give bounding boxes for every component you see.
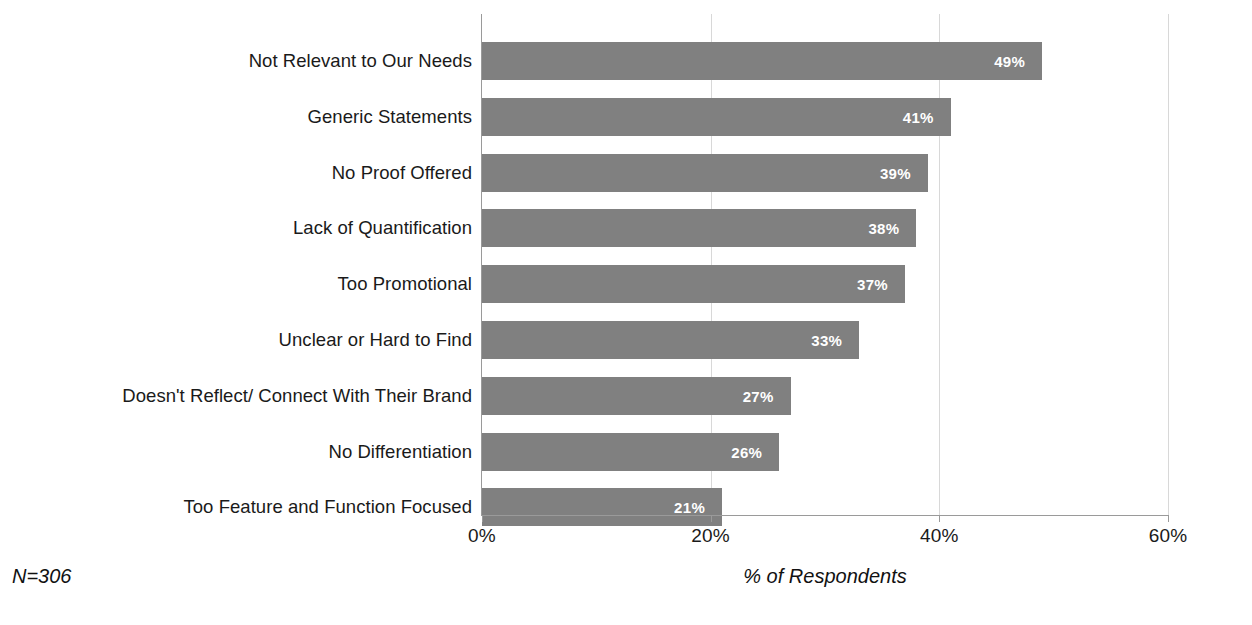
bar-row: 26% [482,433,1168,471]
bar-value-label: 21% [674,499,705,516]
bar-row: 27% [482,377,1168,415]
bar-value-label: 39% [880,164,911,181]
bar [482,42,1042,80]
bar-row: 33% [482,321,1168,359]
category-label: Doesn't Reflect/ Connect With Their Bran… [0,377,472,415]
bar-row: 39% [482,154,1168,192]
category-label: No Differentiation [0,433,472,471]
horizontal-bar-chart: Not Relevant to Our NeedsGeneric Stateme… [0,0,1252,625]
bar [482,321,859,359]
category-label: Unclear or Hard to Find [0,321,472,359]
category-label: Not Relevant to Our Needs [0,42,472,80]
bar [482,98,951,136]
x-axis-tick-label: 40% [920,525,959,547]
x-axis-title: % of Respondents [482,565,1168,588]
bar [482,265,905,303]
bar [482,154,928,192]
bar-value-label: 33% [811,332,842,349]
x-axis-tick [482,515,483,522]
bar-value-label: 26% [731,443,762,460]
category-label: Too Feature and Function Focused [0,488,472,526]
gridline [1168,14,1169,515]
bar-value-label: 49% [994,53,1025,70]
x-axis-tick [939,515,940,522]
bar-value-label: 38% [868,220,899,237]
category-label: Too Promotional [0,265,472,303]
category-label: Generic Statements [0,98,472,136]
y-axis-line [481,14,482,516]
plot-area: 49%41%39%38%37%33%27%26%21% [482,14,1168,515]
bar [482,209,916,247]
x-axis-tick-label: 60% [1149,525,1188,547]
bar-value-label: 41% [903,108,934,125]
bar-row: 37% [482,265,1168,303]
sample-size-note: N=306 [12,565,72,588]
x-axis-tick [711,515,712,522]
bar-value-label: 27% [743,387,774,404]
category-label: No Proof Offered [0,154,472,192]
x-axis-tick [1168,515,1169,522]
bar-value-label: 37% [857,276,888,293]
category-label: Lack of Quantification [0,209,472,247]
x-axis-line [482,515,1169,516]
bar-row: 38% [482,209,1168,247]
x-axis-tick-label: 20% [691,525,730,547]
bar-row: 41% [482,98,1168,136]
bar-row: 21% [482,488,1168,526]
bar-row: 49% [482,42,1168,80]
x-axis-tick-label: 0% [468,525,496,547]
